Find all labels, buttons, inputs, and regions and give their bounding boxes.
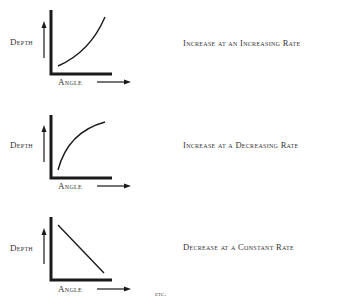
y-axis-label: Depth [10, 37, 33, 47]
x-axis-label: Angle [58, 77, 82, 87]
diagram-constant-rate: Depth Angle Decrease at a Constant Rate [0, 200, 338, 300]
x-axis-label: Angle [58, 284, 82, 294]
diagram-description: Increase at a Decreasing Rate [183, 140, 299, 150]
y-axis-label: Depth [10, 243, 33, 253]
line-constant-rate [58, 225, 104, 273]
diagram-decreasing-rate: Depth Angle Increase at a Decreasing Rat… [0, 100, 338, 200]
x-axis-label: Angle [58, 181, 82, 191]
y-axis-label: Depth [10, 140, 33, 150]
etc-label: etc. [155, 290, 166, 298]
diagram-description: Decrease at a Constant Rate [183, 242, 294, 252]
curve-decreasing-rate [58, 122, 105, 170]
diagram-increasing-rate: Depth Angle Increase at an Increasing Ra… [0, 0, 338, 100]
diagram-description: Increase at an Increasing Rate [183, 38, 301, 48]
curve-increasing-rate [58, 17, 105, 66]
